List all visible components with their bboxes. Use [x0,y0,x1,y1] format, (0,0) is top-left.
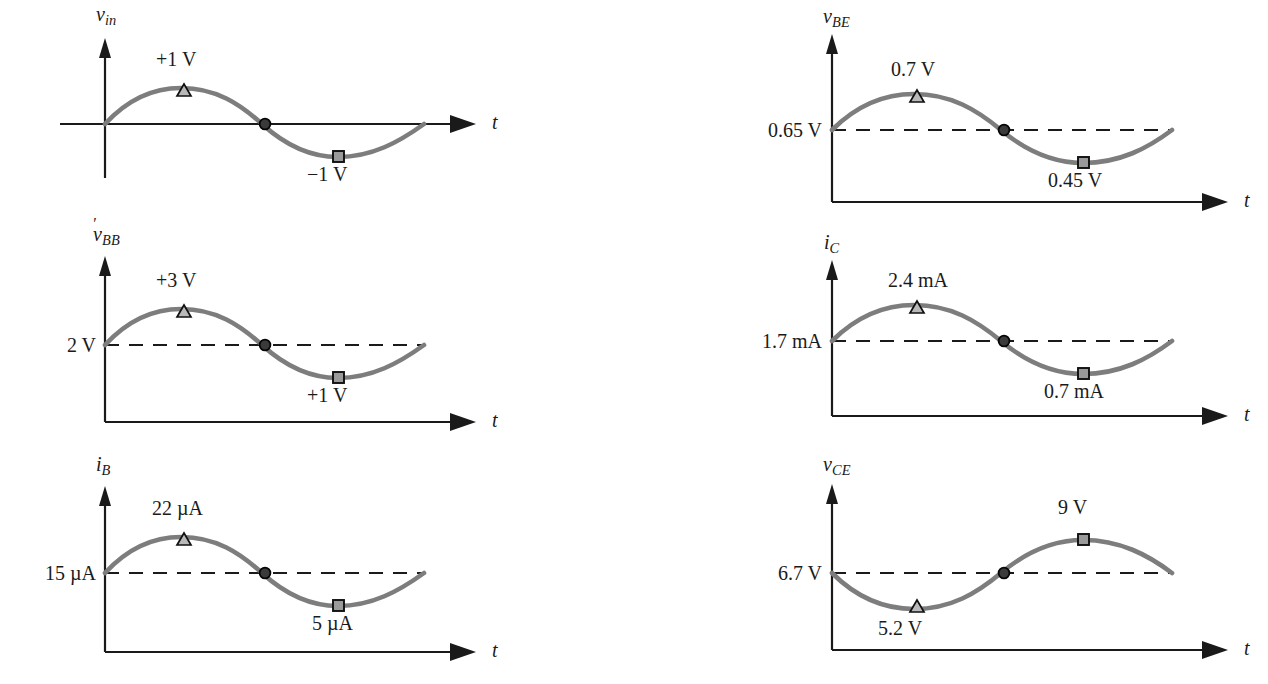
y-axis-arrowhead [99,486,111,506]
peak-value-label: 9 V [1058,497,1087,517]
circle-marker [999,125,1010,136]
t-axis-arrowhead [450,643,476,661]
panel-i-b: iB 22 µA 15 µA 5 µA t [0,452,560,684]
peak-value-label: 2.4 mA [888,270,948,290]
y-axis-arrowhead [826,260,838,280]
y-axis-arrowhead [99,256,111,276]
y-axis-label-v-ce: vCE [823,454,851,477]
circle-marker [999,336,1010,347]
panel-v-in: vin +1 V −1 V t [0,0,560,210]
square-marker [333,600,344,611]
circle-marker [260,119,271,130]
square-marker [1078,157,1089,168]
t-axis-label: t [1244,190,1250,210]
circle-marker [260,568,271,579]
y-axis-arrowhead [826,34,838,54]
t-axis-label: t [492,640,498,660]
peak-value-label: +3 V [156,270,196,290]
panel-v-bb-prime: v′BB +3 V 2 V +1 V t [0,228,560,438]
peak-value-label: 22 µA [152,498,203,518]
square-marker [1078,368,1089,379]
circle-marker [260,340,271,351]
t-axis-label: t [492,410,498,430]
t-axis-arrowhead [1202,193,1228,211]
reference-value-label: 6.7 V [724,563,822,583]
trough-value-label: 0.7 mA [1044,381,1104,401]
trough-value-label: 0.45 V [1048,170,1102,190]
y-axis-label-v-bb-prime: v′BB [93,224,120,247]
trough-value-label: 5 µA [312,613,353,633]
y-axis-label-i-b: iB [96,454,111,477]
panel-v-be: vBE 0.7 V 0.65 V 0.45 V t [620,0,1268,220]
reference-value-label: 0.65 V [716,120,822,140]
prime-mark: ′ [93,216,97,232]
t-axis-arrowhead [450,413,476,431]
y-axis-label-v-in: vin [96,4,116,27]
y-axis-label-v-be: vBE [823,6,850,29]
reference-value-label: 15 µA [0,563,96,583]
plot-v-in [0,0,560,210]
trough-value-label: 5.2 V [878,618,922,638]
circle-marker [999,568,1010,579]
plot-v-ce [620,452,1268,684]
waveform-figure: vin +1 V −1 V t v′BB +3 V 2 V +1 V t [0,0,1268,684]
square-marker [333,372,344,383]
plot-v-be [620,0,1268,220]
square-marker [333,151,344,162]
trough-value-label: −1 V [307,164,347,184]
peak-value-label: 0.7 V [891,59,935,79]
y-axis-label-i-c: iC [824,232,839,255]
triangle-marker [910,600,924,612]
y-axis-arrowhead [99,38,111,58]
t-axis-label: t [1244,638,1250,658]
reference-value-label: 1.7 mA [708,331,822,351]
t-axis-arrowhead [450,115,476,133]
t-axis-label: t [1244,404,1250,424]
t-axis-arrowhead [1202,641,1228,659]
square-marker [1078,534,1089,545]
plot-v-bb-prime [0,228,560,438]
panel-v-ce: vCE 9 V 6.7 V 5.2 V t [620,452,1268,684]
peak-value-label: +1 V [156,49,196,69]
t-axis-label: t [492,112,498,132]
t-axis-arrowhead [1202,407,1228,425]
panel-i-c: iC 2.4 mA 1.7 mA 0.7 mA t [620,228,1268,443]
trough-value-label: +1 V [307,385,347,405]
y-axis-arrowhead [826,484,838,504]
reference-value-label: 2 V [22,335,96,355]
